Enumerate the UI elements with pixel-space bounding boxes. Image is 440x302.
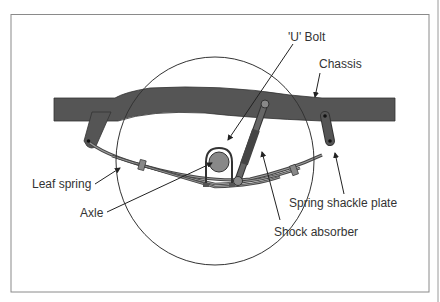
axle <box>209 152 229 172</box>
front-hanger-pin <box>87 139 91 143</box>
spring-clip-front <box>138 159 146 170</box>
label-axle: Axle <box>80 206 103 220</box>
label-leaf-spring: Leaf spring <box>32 177 91 191</box>
label-spring-shackle-plate: Spring shackle plate <box>289 196 397 210</box>
shackle-leader <box>335 153 344 194</box>
label-chassis: Chassis <box>319 57 362 71</box>
suspension-diagram <box>0 0 440 302</box>
label-u-bolt: 'U' Bolt <box>288 30 325 44</box>
chassis-leader <box>315 73 320 97</box>
spring-shackle-plate <box>323 114 332 143</box>
leaf-spring-leader <box>95 168 120 184</box>
shock-absorber-leader <box>262 152 280 220</box>
label-shock-absorber: Shock absorber <box>274 225 358 239</box>
u-bolt-nut-left <box>203 183 209 187</box>
